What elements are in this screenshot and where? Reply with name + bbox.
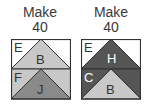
label-bottom-triangle: J xyxy=(37,83,44,96)
block-square: E H C B xyxy=(81,39,141,100)
label-top-corner: E xyxy=(14,41,23,54)
label-top-triangle: H xyxy=(107,52,116,65)
block-square: E B F J xyxy=(11,39,71,100)
label-bottom-triangle: B xyxy=(106,83,115,96)
label-top-triangle: B xyxy=(36,53,45,66)
label-bottom-corner: C xyxy=(84,71,93,84)
panel-title-line2: 40 xyxy=(80,20,142,34)
panel-title-line1: Make xyxy=(9,5,71,19)
panel-title-line2: 40 xyxy=(9,20,71,34)
label-top-corner: E xyxy=(84,41,93,54)
label-bottom-corner: F xyxy=(14,71,22,84)
panel-title-line1: Make xyxy=(80,5,142,19)
